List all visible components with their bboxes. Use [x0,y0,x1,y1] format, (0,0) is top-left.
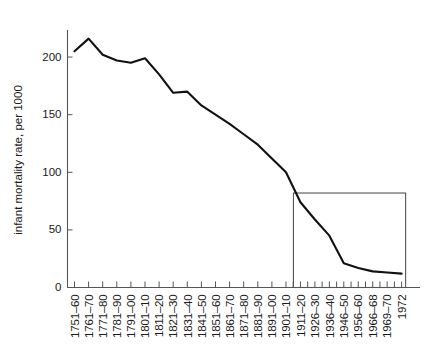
y-axis-tick-label: 200 [42,51,61,63]
x-axis-tick-label: 1861–70 [224,295,236,338]
x-axis-tick-label: 1911–20 [295,295,307,338]
y-axis-tick-label: 100 [42,166,61,178]
infant-mortality-line-chart: 050100150200 1751–601761–701771–801781–9… [0,0,445,359]
y-axis-tick-label: 150 [42,108,61,120]
x-axis-tick-label: 1956–60 [352,295,364,338]
x-axis-tick-label: 1851–60 [210,295,222,338]
y-axis-tick-label: 50 [49,223,62,235]
x-axis-tick-label: 1946–50 [338,295,350,338]
x-axis-tick-label: 1751–60 [69,295,81,338]
x-axis-tick-label: 1801–10 [139,295,151,338]
y-axis-title: infant mortality rate, per 1000 [12,85,24,235]
x-axis-tick-label: 1969–70 [381,295,393,338]
x-axis-tick-label: 1831–40 [182,295,194,338]
y-axis-tick-label: 0 [55,281,61,293]
x-axis-tick-labels: 1751–601761–701771–801781–901791–001801–… [69,295,408,338]
x-axis-tick-label: 1811–20 [153,295,165,338]
x-axis-tick-label: 1821–30 [167,295,179,338]
x-axis-tick-label: 1791–00 [125,295,137,338]
x-axis-tick-label: 1966–68 [367,295,379,338]
x-axis-tick-label: 1972 [396,295,408,320]
mortality-rate-line [75,39,402,274]
chart-figure: 050100150200 1751–601761–701771–801781–9… [0,0,445,359]
x-axis-tick-label: 1781–90 [111,295,123,338]
x-axis-tick-label: 1936–40 [324,295,336,338]
x-axis-tick-label: 1891–00 [266,295,278,338]
x-axis-ticks [75,282,402,288]
x-axis-tick-label: 1761–70 [83,295,95,338]
x-axis-tick-label: 1771–80 [97,295,109,338]
x-axis-tick-label: 1871–80 [238,295,250,338]
x-axis-tick-label: 1881–90 [252,295,264,338]
x-axis-tick-label: 1841–50 [196,295,208,338]
x-axis-tick-label: 1926–30 [309,295,321,338]
plot-axes [68,30,421,288]
x-axis-tick-label: 1901–10 [280,295,292,338]
y-axis-tick-labels: 050100150200 [42,51,61,293]
y-axis-ticks [68,57,73,287]
